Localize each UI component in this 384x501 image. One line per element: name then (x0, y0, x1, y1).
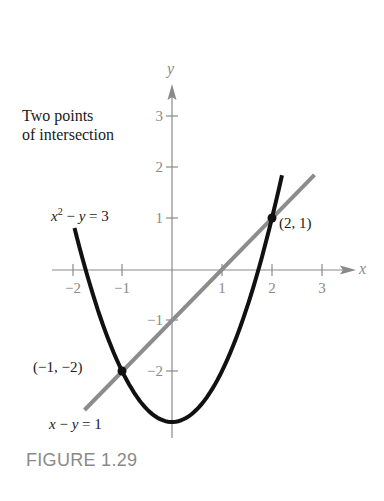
x-axis-label: x (359, 260, 366, 278)
svg-text:3: 3 (156, 108, 164, 124)
tick-labels: −2 −1 1 2 3 3 2 1 −1 −2 (65, 108, 326, 379)
svg-text:2: 2 (156, 159, 164, 175)
parabola-equation-label: x2 − y = 3 (51, 206, 109, 225)
figure-caption: FIGURE 1.29 (26, 450, 137, 471)
svg-text:1: 1 (218, 280, 226, 296)
point-neg1-neg2 (118, 367, 127, 376)
svg-text:−2: −2 (65, 280, 81, 296)
svg-text:−2: −2 (147, 363, 163, 379)
ticks (73, 116, 322, 371)
annotation-line-1: Two points (22, 106, 114, 125)
point-label-2-1: (2, 1) (279, 215, 312, 232)
annotation-two-points: Two points of intersection (22, 106, 114, 144)
annotation-line-2: of intersection (22, 125, 114, 144)
svg-text:−1: −1 (147, 312, 163, 328)
point-label-neg1-neg2: (−1, −2) (33, 359, 82, 376)
svg-text:1: 1 (156, 210, 164, 226)
axes (52, 96, 344, 438)
line-equation-label: x − y = 1 (49, 416, 102, 433)
point-2-1 (268, 214, 277, 223)
svg-text:3: 3 (318, 280, 326, 296)
svg-text:2: 2 (268, 280, 276, 296)
y-axis-label: y (167, 60, 174, 78)
svg-text:−1: −1 (114, 280, 130, 296)
